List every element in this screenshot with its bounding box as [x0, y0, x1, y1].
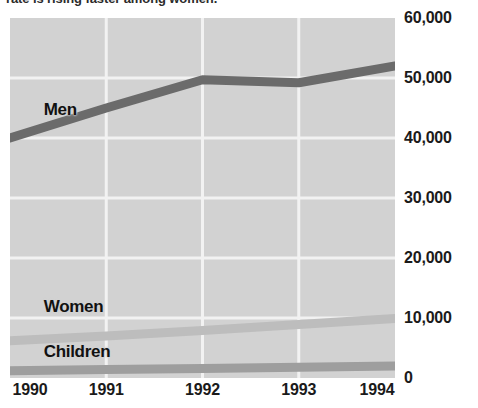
y-axis-tick: 20,000 — [404, 249, 452, 267]
x-axis-labels: 19901991199219931994 — [0, 378, 404, 408]
y-axis-tick: 40,000 — [404, 129, 452, 147]
y-axis-tick: 50,000 — [404, 69, 452, 87]
y-axis-labels: 010,00020,00030,00040,00050,00060,000 — [404, 0, 478, 408]
x-axis-tick: 1991 — [89, 381, 124, 399]
y-axis-tick: 60,000 — [404, 9, 452, 27]
y-axis-tick: 30,000 — [404, 189, 452, 207]
plot-svg — [10, 18, 395, 378]
series-label-children: Children — [44, 342, 111, 362]
chart-title: rate is rising faster among women. — [6, 0, 217, 6]
series-label-women: Women — [44, 297, 104, 317]
plot-area: MenWomenChildren — [10, 18, 395, 378]
y-axis-tick: 10,000 — [404, 309, 452, 327]
x-axis-tick: 1990 — [13, 381, 48, 399]
x-axis-tick: 1993 — [281, 381, 316, 399]
chart-root: rate is rising faster among women. MenWo… — [0, 0, 478, 408]
y-axis-tick: 0 — [404, 369, 413, 387]
series-line-children — [10, 366, 395, 371]
x-axis-tick: 1994 — [360, 381, 395, 399]
series-label-men: Men — [44, 100, 77, 120]
x-axis-tick: 1992 — [185, 381, 220, 399]
